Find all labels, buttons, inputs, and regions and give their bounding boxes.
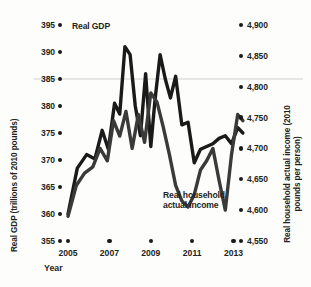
series-label-real-household-actual-income: Real household actual income [163,190,225,210]
left-axis-tick-label: 375 [33,128,55,138]
right-axis-tick-dot [239,146,243,150]
x-axis-tick-dot [231,239,235,243]
left-axis-tick-label: 370 [33,155,55,165]
right-axis-tick-label: 4,800 [247,82,268,92]
right-axis-tick-label: 4,650 [247,174,268,184]
x-axis-tick-label: 2007 [100,248,119,258]
left-axis-tick-label: 390 [33,47,55,57]
series-label-real-gdp: Real GDP [72,21,110,31]
series-line-real-gdp [68,47,243,214]
right-axis-tick-label: 4,900 [247,20,268,30]
x-axis-tick-label: 2013 [224,248,243,258]
left-axis-tick-label: 365 [33,182,55,192]
right-axis-tick-label: 4,550 [247,236,268,246]
left-axis-tick-label: 385 [33,74,55,84]
x-axis-tick-dot [149,239,153,243]
x-axis-tick-label: 2005 [58,248,77,258]
right-axis-title: Real household actual income (2010 pound… [283,90,302,258]
left-axis-tick-label: 360 [33,209,55,219]
x-axis-tick-label: 2009 [141,248,160,258]
right-axis-tick-label: 4,600 [247,205,268,215]
left-axis-tick-label: 380 [33,101,55,111]
left-axis-title: Real GDP (trillions of 2010 pounds) [10,119,20,252]
right-axis-tick-label: 4,750 [247,113,268,123]
chart-container: 355360365370375380385390395 4,5504,6004,… [0,0,311,287]
right-axis-tick-label: 4,850 [247,51,268,61]
left-axis-tick-label: 355 [33,236,55,246]
left-axis-tick-label: 395 [33,20,55,30]
x-axis-title: Year [44,263,63,273]
x-axis-tick-dot [107,239,111,243]
x-axis-tick-label: 2011 [183,248,202,258]
right-axis-tick-label: 4,700 [247,143,268,153]
